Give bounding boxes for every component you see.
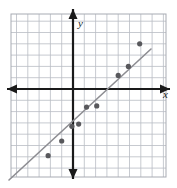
scatter-plot-graphic — [0, 0, 177, 188]
figure-canvas: y x — [0, 0, 177, 188]
grid-border — [11, 14, 166, 177]
x-axis-arrow-left — [7, 85, 17, 94]
data-point — [84, 104, 89, 109]
data-point — [46, 153, 51, 158]
data-points — [46, 41, 143, 158]
data-point — [116, 73, 121, 78]
coordinate-axes — [7, 9, 170, 179]
data-point — [69, 124, 74, 129]
data-point — [76, 121, 81, 126]
grid-lines — [11, 14, 166, 177]
data-point — [94, 103, 99, 108]
y-axis-label: y — [78, 18, 83, 29]
data-point — [59, 138, 64, 143]
x-axis-label: x — [163, 89, 168, 100]
data-point — [126, 64, 131, 69]
data-point — [137, 41, 142, 46]
